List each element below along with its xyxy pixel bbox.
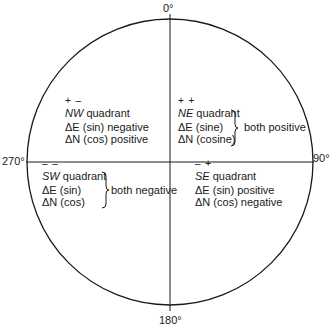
nw-name: quadrant bbox=[83, 107, 129, 119]
se-signs: – + bbox=[195, 158, 212, 170]
sw-brace-label: both negative bbox=[111, 184, 177, 197]
label-0-degrees: 0° bbox=[163, 2, 174, 14]
ne-brace-label: both positive bbox=[244, 121, 306, 134]
se-quadrant-title: SE quadrant bbox=[195, 170, 256, 182]
label-270-degrees: 270° bbox=[2, 155, 25, 167]
se-abbr: SE bbox=[195, 170, 210, 182]
ne-signs: + + bbox=[178, 95, 195, 107]
ne-delta-n: ΔN (cosine) bbox=[178, 133, 235, 146]
nw-quadrant-title: NW quadrant bbox=[65, 107, 130, 119]
sw-abbr: SW bbox=[42, 170, 60, 182]
sw-delta-n: ΔN (cos) bbox=[42, 196, 85, 209]
sw-quadrant-title: SW quadrant bbox=[42, 170, 106, 182]
se-delta-n: ΔN (cos) negative bbox=[195, 196, 282, 209]
nw-delta-n: ΔN (cos) positive bbox=[65, 133, 148, 146]
nw-abbr: NW bbox=[65, 107, 83, 119]
se-name: quadrant bbox=[210, 170, 256, 182]
sw-name: quadrant bbox=[60, 170, 106, 182]
ne-quadrant-title: NE quadrant bbox=[178, 107, 240, 119]
label-180-degrees: 180° bbox=[159, 314, 182, 326]
ne-name: quadrant bbox=[193, 107, 239, 119]
ne-abbr: NE bbox=[178, 107, 193, 119]
label-90-degrees: 90° bbox=[313, 152, 330, 164]
sw-signs: – – bbox=[42, 158, 59, 170]
nw-signs: + – bbox=[65, 95, 82, 107]
